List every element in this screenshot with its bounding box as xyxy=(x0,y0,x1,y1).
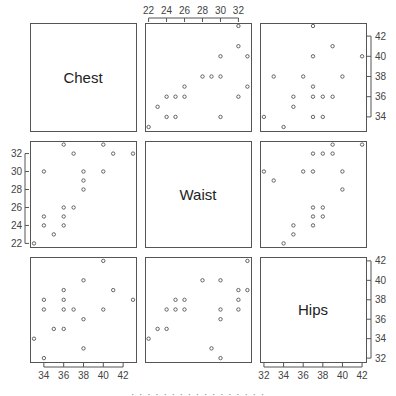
data-point xyxy=(237,24,240,27)
panel-3-2 xyxy=(146,258,252,363)
tick-label: 34 xyxy=(375,333,387,344)
panel-3-2-points xyxy=(147,259,249,360)
data-point xyxy=(282,125,285,128)
data-point xyxy=(272,75,275,78)
diag-label-waist: Waist xyxy=(180,186,218,203)
data-point xyxy=(42,224,45,227)
data-point xyxy=(219,279,222,282)
diag-label-hips: Hips xyxy=(298,301,328,318)
cropped-caption: · · · · · · · · · · · · · · · · · xyxy=(0,389,396,396)
panel-2-3 xyxy=(261,142,367,248)
data-point xyxy=(62,143,65,146)
tick-label: 32 xyxy=(258,370,270,381)
data-point xyxy=(219,308,222,311)
data-point xyxy=(62,288,65,291)
data-point xyxy=(82,318,85,321)
data-point xyxy=(331,95,334,98)
data-point xyxy=(174,95,177,98)
data-point xyxy=(219,318,222,321)
data-point xyxy=(102,259,105,262)
data-point xyxy=(156,105,159,108)
tick-label: 32 xyxy=(375,353,387,364)
tick-label: 24 xyxy=(161,5,173,16)
data-point xyxy=(52,327,55,330)
data-point xyxy=(62,215,65,218)
data-point xyxy=(147,337,150,340)
data-point xyxy=(292,105,295,108)
tick-label: 38 xyxy=(375,71,387,82)
data-point xyxy=(82,179,85,182)
data-point xyxy=(321,215,324,218)
data-point xyxy=(183,95,186,98)
data-point xyxy=(321,206,324,209)
data-point xyxy=(311,215,314,218)
scatterplot-matrix: Chest Waist Hips 22242628303234363840423… xyxy=(0,0,396,396)
tick-label: 26 xyxy=(179,5,191,16)
data-point xyxy=(82,347,85,350)
data-point xyxy=(165,308,168,311)
panel-2-3-points xyxy=(262,143,364,245)
data-point xyxy=(246,85,249,88)
data-point xyxy=(311,224,314,227)
data-point xyxy=(32,242,35,245)
data-point xyxy=(311,206,314,209)
data-point xyxy=(112,288,115,291)
tick-label: 22 xyxy=(11,238,23,249)
panel-3-1-points xyxy=(32,259,134,360)
data-point xyxy=(341,170,344,173)
data-point xyxy=(42,356,45,359)
data-point xyxy=(131,152,134,155)
data-point xyxy=(131,298,134,301)
data-point xyxy=(311,115,314,118)
data-point xyxy=(311,170,314,173)
tick-label: 40 xyxy=(98,370,110,381)
data-point xyxy=(82,279,85,282)
data-point xyxy=(246,288,249,291)
data-point xyxy=(72,206,75,209)
data-point xyxy=(292,224,295,227)
data-point xyxy=(237,288,240,291)
data-point xyxy=(237,45,240,48)
data-point xyxy=(311,24,314,27)
tick-label: 38 xyxy=(78,370,90,381)
panel-2-1-points xyxy=(32,143,134,245)
data-point xyxy=(302,75,305,78)
data-point xyxy=(237,308,240,311)
data-point xyxy=(174,308,177,311)
data-point xyxy=(292,95,295,98)
data-point xyxy=(62,224,65,227)
data-point xyxy=(311,95,314,98)
data-point xyxy=(321,115,324,118)
data-point xyxy=(42,215,45,218)
data-point xyxy=(183,298,186,301)
data-point xyxy=(72,152,75,155)
panel-2-1 xyxy=(31,142,137,248)
data-point xyxy=(72,308,75,311)
tick-label: 42 xyxy=(375,255,387,266)
tick-label: 36 xyxy=(375,91,387,102)
data-point xyxy=(331,45,334,48)
data-point xyxy=(237,298,240,301)
tick-label: 32 xyxy=(233,5,245,16)
data-point xyxy=(82,188,85,191)
tick-label: 36 xyxy=(58,370,70,381)
data-point xyxy=(62,298,65,301)
data-point xyxy=(302,170,305,173)
data-point xyxy=(341,75,344,78)
data-point xyxy=(201,279,204,282)
tick-label: 34 xyxy=(375,111,387,122)
data-point xyxy=(183,308,186,311)
data-point xyxy=(341,188,344,191)
data-point xyxy=(174,298,177,301)
data-point xyxy=(321,95,324,98)
tick-label: 38 xyxy=(375,294,387,305)
tick-label: 34 xyxy=(38,370,50,381)
data-point xyxy=(174,115,177,118)
data-point xyxy=(62,327,65,330)
data-point xyxy=(262,170,265,173)
tick-label: 42 xyxy=(357,370,369,381)
data-point xyxy=(272,179,275,182)
data-point xyxy=(237,95,240,98)
data-point xyxy=(219,115,222,118)
tick-label: 34 xyxy=(278,370,290,381)
